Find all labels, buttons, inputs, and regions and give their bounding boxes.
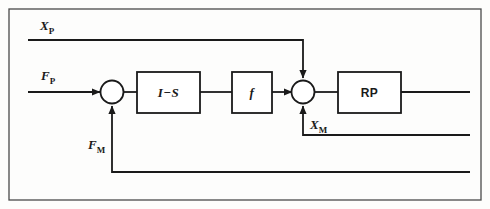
fp-symbol: F [41, 68, 50, 83]
fm-signal-label: FM [88, 137, 105, 155]
fp-subscript: P [50, 76, 56, 86]
plant-block-label: RP [338, 72, 401, 113]
fm-feedback-path [112, 106, 470, 172]
fm-subscript: M [97, 145, 106, 155]
diagram-canvas: I−S f RP XP FP FM XM [0, 0, 490, 209]
function-block-label: f [232, 72, 272, 113]
xp-subscript: P [49, 26, 55, 36]
xp-symbol: X [40, 18, 49, 33]
function-block-text: f [250, 85, 255, 101]
compliance-block-text: I−S [158, 85, 180, 101]
summing-junction-2 [292, 81, 315, 104]
xm-signal-label: XM [310, 117, 327, 135]
fm-symbol: F [88, 137, 97, 152]
xp-signal-label: XP [40, 18, 54, 36]
fp-signal-label: FP [41, 68, 55, 86]
xm-subscript: M [319, 125, 328, 135]
summing-junction-1 [101, 81, 124, 104]
plant-block-text: RP [361, 86, 378, 100]
xm-symbol: X [310, 117, 319, 132]
compliance-block-label: I−S [137, 72, 200, 113]
